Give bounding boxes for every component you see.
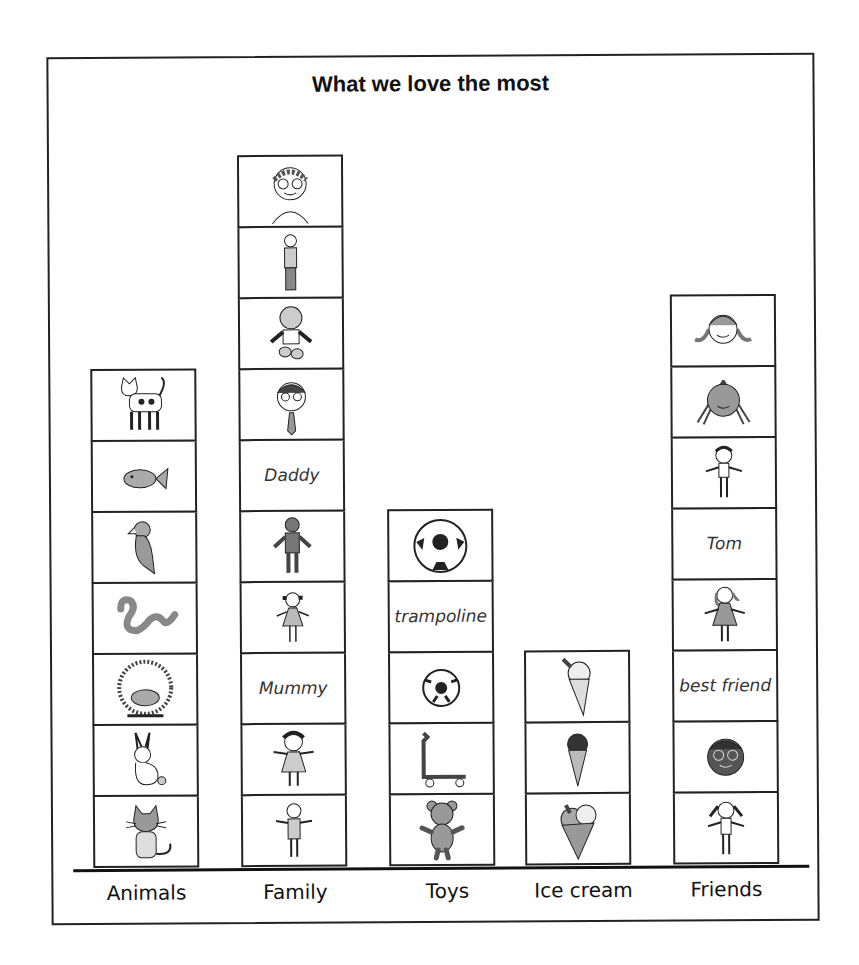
pictogram-cell [92,652,198,726]
pictogram-cell [671,436,777,510]
pictogram-cell: Tom [671,507,777,581]
ice-cream-with-flake-icon [537,654,617,718]
dad-with-glasses-icon [251,372,331,436]
rabbit-icon [105,728,185,792]
pictogram-cell [92,581,198,655]
pictogram-cell [240,581,346,655]
girl-pigtails-icon [686,795,766,859]
football-icon [401,655,481,719]
grandma-icon [250,159,330,223]
pictogram-cell [92,723,198,797]
pictogram-cell [524,650,630,724]
pictogram-cell [237,226,343,300]
pictogram-cell [238,368,344,442]
pictogram-cell [237,155,343,229]
column-friends: best friend Tom [670,296,779,865]
pictogram-cell [524,721,630,795]
pictogram-cell [238,297,344,371]
word-daddy: Daddy [264,466,319,484]
category-label-animals: Animals [76,880,216,905]
pictogram-cell [93,794,199,868]
fish-icon [104,444,184,508]
pictogram-cell [673,791,779,865]
pictogram-cell [91,510,197,584]
man-icon [252,514,332,578]
pictogram-cell [388,722,494,796]
girl-face-icon [683,298,763,362]
pictogram-cell [670,365,776,439]
double-scoop-ice-cream-icon [538,796,618,860]
pictogram-cell: Daddy [239,439,345,513]
pictogram-cell [241,794,347,868]
category-label-friends: Friends [656,877,796,902]
word-trampoline: trampoline [394,607,487,625]
column-animals [90,370,199,868]
category-label-family: Family [225,879,365,904]
parrot-icon [104,515,184,579]
pictogram-cell: trampoline [388,580,494,654]
pictogram-cell [672,720,778,794]
pictogram-cell [239,510,345,584]
word-best-friend: best friend [679,677,771,695]
girl-icon [253,585,333,649]
spotted-cat-icon [103,373,183,437]
boy-standing-icon [250,230,330,294]
column-ice-cream [524,652,631,866]
girl-in-dress-icon [685,582,765,646]
football-large-icon [400,513,480,577]
chart-frame: What we love the most Mummy Daddy [46,53,819,926]
boy-with-glasses-icon [685,724,765,788]
pictogram-cell [525,792,631,866]
chocolate-ice-cream-icon [537,725,617,789]
cat-icon [106,799,186,863]
word-tom: Tom [707,535,742,553]
scooter-icon [401,726,481,790]
hamster-wheel-icon [105,657,185,721]
pictogram-cell [387,509,493,583]
snake-icon [105,586,185,650]
word-mummy: Mummy [259,679,328,697]
pictogram-cell [389,793,495,867]
girl-with-curls-icon [253,727,333,791]
baby-icon [251,301,331,365]
category-label-toys: Toys [377,878,517,903]
category-label-ice-cream: Ice cream [513,878,653,903]
column-toys: trampoline [387,511,495,867]
pictogram-cell [670,294,776,368]
boy-icon [254,798,334,862]
pictogram-cell: best friend [672,649,778,723]
pictogram-cell [672,578,778,652]
pictogram-cell [388,651,494,725]
column-family: Mummy Daddy [237,157,347,868]
pictogram-cell: Mummy [240,652,346,726]
pictogram-cell [91,439,197,513]
teddy-bear-icon [402,797,482,861]
girl-long-hair-face-icon [683,369,763,433]
pictogram-cell [90,368,196,442]
boy-curly-hair-icon [684,440,764,504]
pictogram-cell [240,723,346,797]
chart-title: What we love the most [48,69,812,100]
